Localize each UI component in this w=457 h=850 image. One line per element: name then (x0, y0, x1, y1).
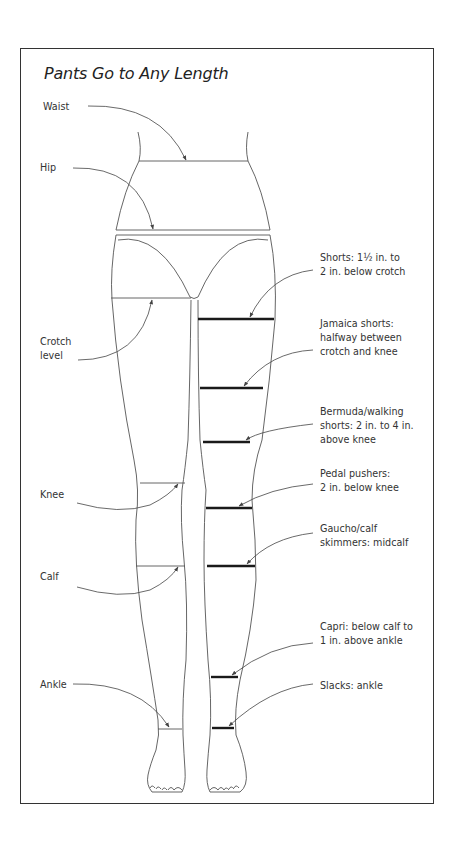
label-line: Pedal pushers: (320, 467, 399, 481)
label-line: 2 in. below knee (320, 481, 399, 495)
body-outline (112, 132, 276, 792)
label-line: 2 in. below crotch (320, 265, 405, 279)
label-line: Jamaica shorts: (320, 317, 402, 331)
label-line: skimmers: midcalf (320, 536, 408, 550)
label-line: Capri: below calf to (320, 620, 413, 634)
label-line: shorts: 2 in. to 4 in. (320, 419, 414, 433)
label-calf: Calf (40, 570, 59, 584)
label-pedal-pushers: Pedal pushers: 2 in. below knee (320, 467, 399, 495)
knee-arrow-icon (77, 484, 178, 510)
label-jamaica-shorts: Jamaica shorts: halfway between crotch a… (320, 317, 402, 359)
label-crotch-level: Crotch level (40, 335, 71, 363)
pedal-pushers-arrow-icon (239, 484, 313, 506)
label-line: Bermuda/walking (320, 405, 414, 419)
ankle-arrow-icon (73, 684, 169, 727)
label-bermuda-shorts: Bermuda/walking shorts: 2 in. to 4 in. a… (320, 405, 414, 447)
waist-arrow-icon (88, 106, 186, 160)
hip-arrow-icon (73, 168, 153, 229)
label-ankle: Ankle (40, 678, 67, 692)
label-capri: Capri: below calf to 1 in. above ankle (320, 620, 413, 648)
label-line: halfway between (320, 331, 402, 345)
calf-arrow-icon (77, 567, 178, 594)
label-slacks: Slacks: ankle (320, 679, 383, 693)
label-knee: Knee (40, 488, 64, 502)
jamaica-arrow-icon (244, 350, 313, 386)
label-crotch-line1: Crotch (40, 335, 71, 349)
label-crotch-line2: level (40, 349, 71, 363)
gaucho-arrow-icon (247, 533, 313, 564)
label-waist: Waist (43, 100, 69, 114)
capri-arrow-icon (232, 643, 313, 675)
slacks-arrow-icon (229, 684, 313, 726)
bermuda-arrow-icon (246, 424, 313, 440)
hemlines (198, 319, 274, 728)
label-gaucho: Gaucho/calf skimmers: midcalf (320, 522, 408, 550)
label-line: Gaucho/calf (320, 522, 408, 536)
leader-arrows (73, 106, 313, 727)
label-line: above knee (320, 433, 414, 447)
label-line: crotch and knee (320, 345, 402, 359)
label-line: 1 in. above ankle (320, 634, 413, 648)
shorts-arrow-icon (250, 270, 313, 317)
label-line: Shorts: 1½ in. to (320, 251, 405, 265)
label-hip: Hip (40, 161, 56, 175)
label-shorts: Shorts: 1½ in. to 2 in. below crotch (320, 251, 405, 279)
label-line: Slacks: ankle (320, 679, 383, 693)
body-measure-lines (111, 298, 191, 729)
